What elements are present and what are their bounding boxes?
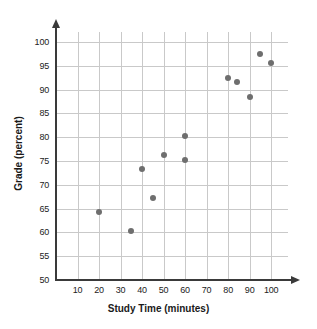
gridline-horizontal (56, 256, 288, 257)
plot-area: 50556065707580859095100 1020304050607080… (0, 0, 317, 329)
data-point (182, 157, 188, 163)
gridline-vertical (121, 32, 122, 281)
gridline-vertical (207, 32, 208, 281)
data-point (96, 209, 102, 215)
data-point (182, 133, 188, 139)
gridline-horizontal (56, 90, 288, 91)
gridline-horizontal (56, 66, 288, 67)
data-point (225, 75, 231, 81)
gridline-vertical (250, 32, 251, 281)
gridline-vertical (228, 32, 229, 281)
y-axis-title: Grade (percent) (13, 74, 24, 234)
gridline-vertical (271, 32, 272, 281)
y-tick-label: 55 (9, 251, 49, 261)
y-tick-label: 95 (9, 61, 49, 71)
data-point (150, 195, 156, 201)
gridline-horizontal (56, 42, 288, 43)
data-point (139, 166, 145, 172)
y-tick-label: 50 (9, 275, 49, 285)
data-point (247, 94, 253, 100)
x-axis-arrow-icon (291, 276, 300, 284)
data-point (257, 51, 263, 57)
gridline-horizontal (56, 113, 288, 114)
data-point (161, 152, 167, 158)
x-tick-label: 100 (256, 285, 286, 295)
gridline-horizontal (56, 209, 288, 210)
gridline-horizontal (56, 161, 288, 162)
y-tick-label: 100 (9, 37, 49, 47)
gridline-horizontal (56, 232, 288, 233)
x-axis-line (56, 279, 293, 281)
x-axis-title: Study Time (minutes) (0, 303, 317, 314)
scatter-plot-figure: 50556065707580859095100 1020304050607080… (0, 0, 317, 329)
y-axis-line (55, 27, 57, 281)
gridline-vertical (78, 32, 79, 281)
y-axis-arrow-icon (52, 19, 60, 28)
gridline-vertical (142, 32, 143, 281)
data-point (234, 79, 240, 85)
gridline-vertical (99, 32, 100, 281)
gridline-horizontal (56, 137, 288, 138)
gridline-horizontal (56, 185, 288, 186)
